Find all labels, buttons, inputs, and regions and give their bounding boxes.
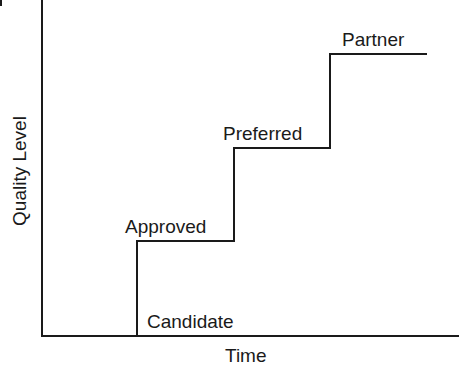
step-label-partner: Partner bbox=[342, 30, 404, 49]
step-label-preferred: Preferred bbox=[223, 124, 302, 143]
step-label-candidate: Candidate bbox=[147, 312, 234, 331]
quality-step-line bbox=[137, 54, 427, 337]
y-axis-label: Quality Level bbox=[9, 111, 31, 231]
x-axis-label: Time bbox=[225, 346, 267, 365]
step-label-approved: Approved bbox=[125, 217, 206, 236]
